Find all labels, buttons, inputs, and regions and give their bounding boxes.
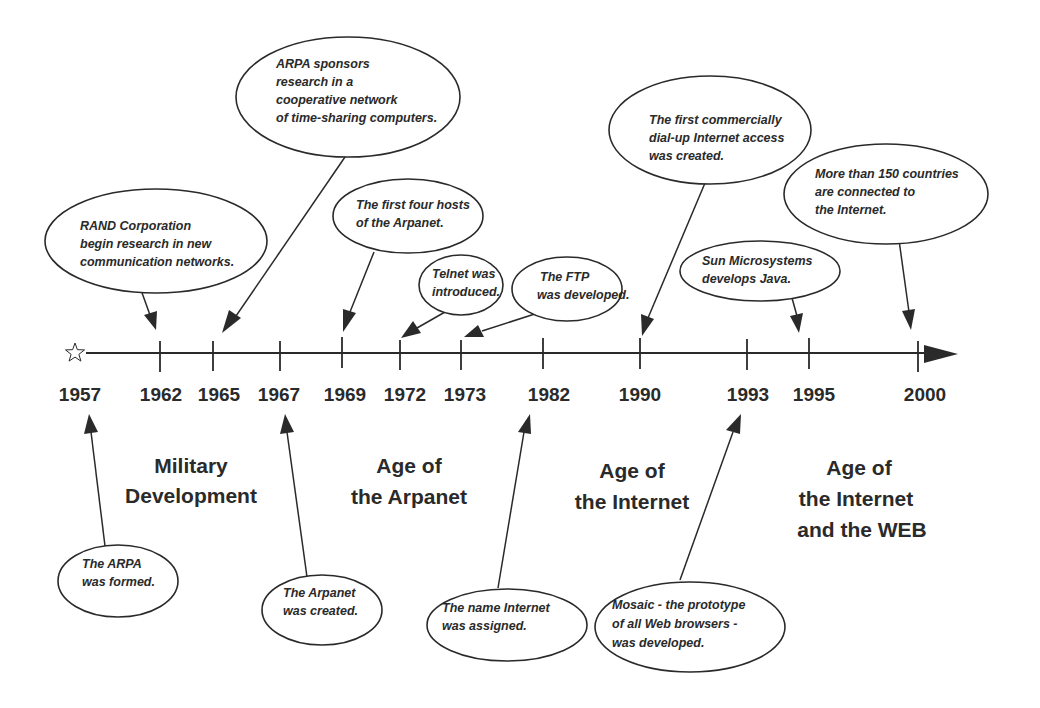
year-label: 1967 bbox=[258, 384, 300, 405]
arrow-head-icon bbox=[518, 414, 531, 434]
era-labels: Military Development Age of the Arpanet … bbox=[125, 454, 927, 541]
era-age-of-arpanet: Age of the Arpanet bbox=[351, 454, 467, 508]
year-label: 2000 bbox=[904, 384, 946, 405]
era-line: Age of bbox=[826, 456, 892, 479]
arrow-head-icon bbox=[641, 314, 654, 336]
year-label: 1982 bbox=[528, 384, 570, 405]
era-line: Military bbox=[154, 454, 228, 477]
event-1957-arpa-formed: The ARPA was formed. bbox=[58, 414, 178, 617]
era-line: the Internet bbox=[799, 487, 913, 510]
year-label: 1993 bbox=[727, 384, 769, 405]
era-line: and the WEB bbox=[797, 518, 927, 541]
event-1982-name-internet: The name Internet was assigned. bbox=[427, 414, 587, 661]
internet-history-timeline: 1957 1962 1965 1967 1969 1972 1973 1982 … bbox=[0, 0, 1040, 708]
year-label: 1972 bbox=[384, 384, 426, 405]
era-military-development: Military Development bbox=[125, 454, 257, 507]
arrow-head-icon bbox=[902, 309, 915, 330]
era-age-of-internet-and-web: Age of the Internet and the WEB bbox=[797, 456, 927, 541]
year-label: 1973 bbox=[444, 384, 486, 405]
event-1967-arpanet-created: The Arpanet was created. bbox=[262, 414, 382, 645]
year-label: 1957 bbox=[59, 384, 101, 405]
event-1972-telnet: Telnet was introduced. bbox=[401, 255, 503, 338]
axis-arrow-icon bbox=[924, 345, 958, 363]
era-line: Age of bbox=[599, 459, 665, 482]
era-line: Age of bbox=[376, 454, 442, 477]
arrow-head-icon bbox=[401, 321, 421, 338]
year-labels: 1957 1962 1965 1967 1969 1972 1973 1982 … bbox=[59, 384, 946, 405]
era-line: the Arpanet bbox=[351, 485, 467, 508]
year-label: 1995 bbox=[793, 384, 836, 405]
arrow-head-icon bbox=[726, 414, 741, 434]
arrow-head-icon bbox=[464, 325, 484, 337]
axis-ticks bbox=[160, 337, 918, 372]
year-label: 1969 bbox=[324, 384, 366, 405]
arrow-head-icon bbox=[144, 311, 157, 330]
event-1962-rand: RAND Corporation begin research in new c… bbox=[45, 189, 267, 330]
event-2000-countries: More than 150 countries are connected to… bbox=[784, 144, 988, 330]
event-bubble bbox=[680, 241, 840, 301]
timeline-axis bbox=[66, 343, 959, 363]
arrow-head-icon bbox=[280, 414, 294, 434]
arrow-head-icon bbox=[84, 414, 98, 434]
era-line: the Internet bbox=[575, 490, 689, 513]
year-label: 1990 bbox=[619, 384, 661, 405]
year-label: 1962 bbox=[140, 384, 182, 405]
year-label: 1965 bbox=[198, 384, 241, 405]
event-1993-mosaic: Mosaic - the prototype of all Web browse… bbox=[595, 414, 785, 672]
event-1995-java: Sun Microsystems develops Java. bbox=[680, 241, 840, 333]
star-icon bbox=[66, 343, 85, 361]
event-bubble bbox=[609, 76, 811, 184]
arrow-head-icon bbox=[343, 309, 356, 332]
era-line: Development bbox=[125, 484, 257, 507]
arrow-head-icon bbox=[790, 313, 803, 333]
era-age-of-internet: Age of the Internet bbox=[575, 459, 689, 513]
